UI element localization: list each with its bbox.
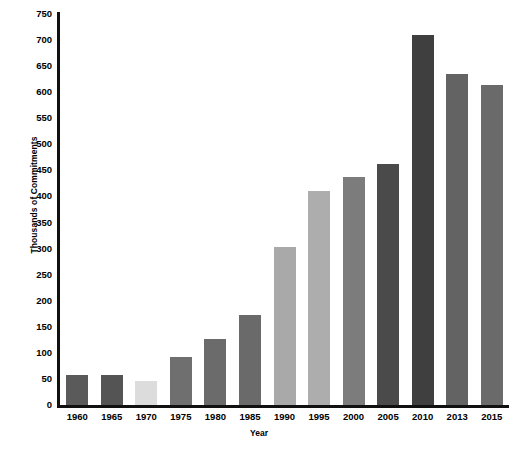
- bar: [101, 375, 123, 405]
- y-tick-label: 400: [4, 192, 52, 202]
- bar: [308, 191, 330, 405]
- bar: [66, 375, 88, 405]
- bar: [239, 315, 261, 405]
- y-tick-label: 150: [4, 322, 52, 332]
- y-tick-label: 0: [4, 400, 52, 410]
- y-tick-label: 700: [4, 35, 52, 45]
- x-tick-label: 1990: [267, 410, 302, 424]
- bars-container: [60, 0, 509, 406]
- x-tick-label: 1985: [233, 410, 268, 424]
- bar: [274, 247, 296, 405]
- bar: [446, 74, 468, 405]
- y-tick-label: 50: [4, 374, 52, 384]
- x-tick-label: 1980: [198, 410, 233, 424]
- y-tick-label: 250: [4, 270, 52, 280]
- x-axis-tick-labels: 1960196519701975198019851990199520002005…: [60, 410, 509, 426]
- y-tick-label: 550: [4, 114, 52, 124]
- bar: [377, 164, 399, 405]
- y-axis-tick-labels: 0501001502002503003504004505005506006507…: [0, 0, 52, 453]
- x-tick-label: 2010: [405, 410, 440, 424]
- x-tick-label: 2013: [440, 410, 475, 424]
- x-axis-title: Year: [0, 428, 518, 438]
- bar-chart: Thousands of Commitments 050100150200250…: [0, 0, 518, 453]
- x-tick-label: 1970: [129, 410, 164, 424]
- x-tick-label: 1965: [95, 410, 130, 424]
- bar: [170, 357, 192, 405]
- y-tick-label: 350: [4, 218, 52, 228]
- bar: [343, 177, 365, 405]
- x-tick-label: 2000: [336, 410, 371, 424]
- y-tick-label: 300: [4, 244, 52, 254]
- bar: [135, 381, 157, 405]
- y-tick-label: 750: [4, 9, 52, 19]
- x-tick-label: 1960: [60, 410, 95, 424]
- y-tick-label: 500: [4, 140, 52, 150]
- x-tick-label: 1995: [302, 410, 337, 424]
- x-tick-label: 1975: [164, 410, 199, 424]
- y-tick-label: 600: [4, 87, 52, 97]
- y-tick-label: 100: [4, 348, 52, 358]
- x-tick-label: 2015: [474, 410, 509, 424]
- bar: [204, 339, 226, 405]
- bar: [412, 35, 434, 405]
- y-tick-label: 200: [4, 296, 52, 306]
- bar: [481, 85, 503, 405]
- y-tick-label: 450: [4, 166, 52, 176]
- y-tick-label: 650: [4, 61, 52, 71]
- x-tick-label: 2005: [371, 410, 406, 424]
